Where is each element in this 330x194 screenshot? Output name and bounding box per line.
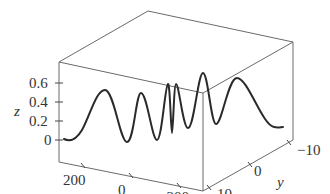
z-tick-0.6: 0.6 <box>29 75 48 91</box>
z-tick-0: 0 <box>44 132 52 148</box>
y-axis-label: y <box>275 174 284 190</box>
z-tick-0.4: 0.4 <box>29 94 48 110</box>
3d-line-plot: 0.6 0.4 0.2 0 z 200 0 −200 −10 0 10 y <box>0 0 330 194</box>
data-curve <box>64 73 283 142</box>
x-tick-200: 200 <box>63 172 86 188</box>
y-axis: −10 0 10 y <box>207 140 320 194</box>
y-tick-10: 10 <box>217 186 232 194</box>
z-axis-label: z <box>13 103 20 119</box>
z-tick-0.2: 0.2 <box>29 113 48 129</box>
z-axis: 0.6 0.4 0.2 0 z <box>13 75 63 148</box>
x-axis: 200 0 −200 <box>63 163 189 194</box>
x-tick-neg200: −200 <box>158 189 189 194</box>
y-tick-0: 0 <box>254 163 262 179</box>
y-tick-neg10: −10 <box>297 142 320 158</box>
x-tick-0: 0 <box>118 182 126 194</box>
